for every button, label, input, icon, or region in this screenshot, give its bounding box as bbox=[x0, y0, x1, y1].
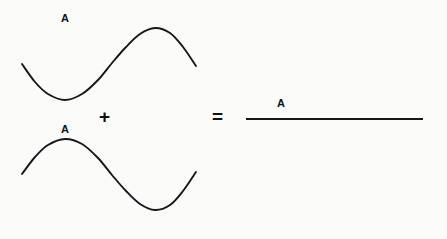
amplitude-label-result: A bbox=[277, 98, 285, 109]
equals-operator: = bbox=[212, 107, 223, 126]
amplitude-label-bottom-wave: A bbox=[61, 124, 69, 135]
amplitude-label-top-wave: A bbox=[61, 13, 69, 24]
wave-bottom-path bbox=[22, 139, 196, 210]
wave-interference-diagram: A A + = A bbox=[0, 0, 447, 239]
diagram-canvas bbox=[0, 0, 447, 239]
wave-top-path bbox=[22, 28, 196, 100]
plus-operator: + bbox=[99, 107, 110, 126]
